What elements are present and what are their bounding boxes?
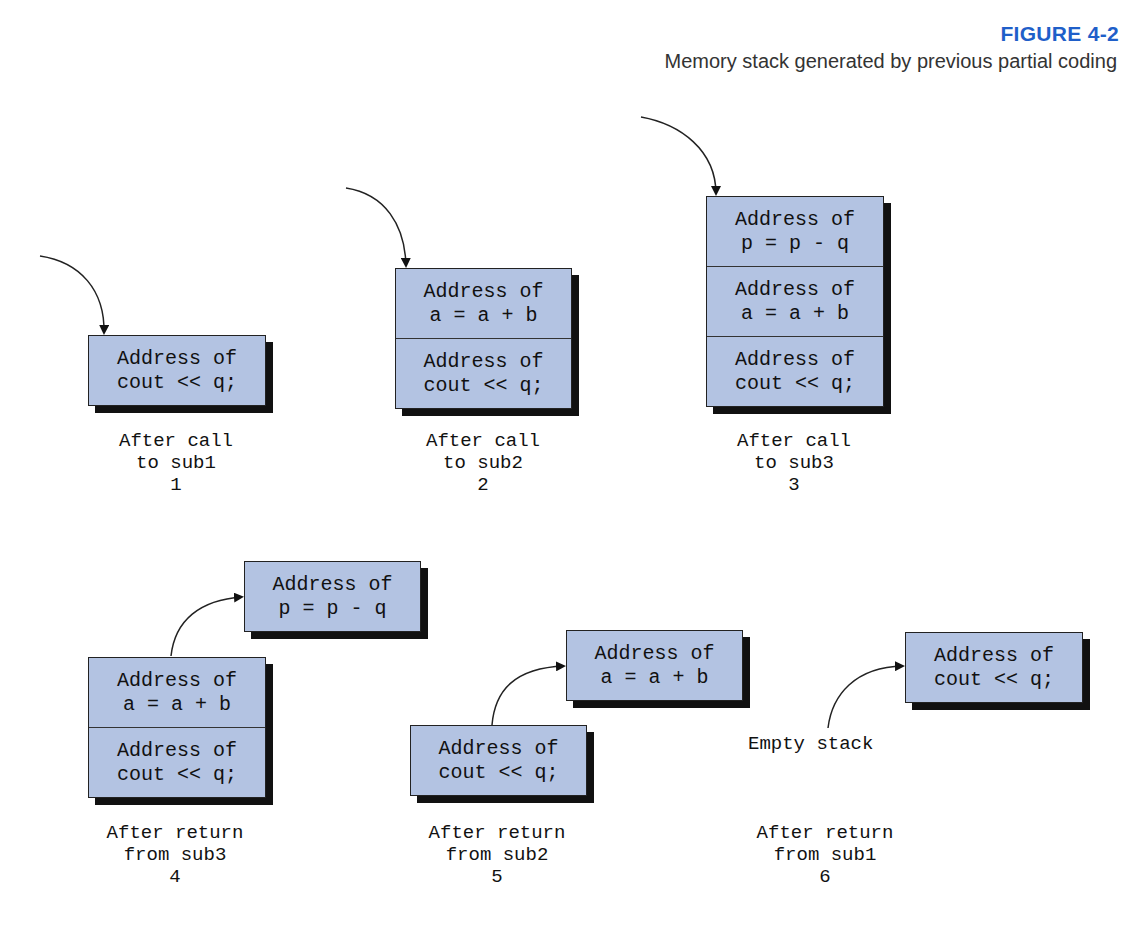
stack-panel-5: Address of cout << q; <box>410 725 587 796</box>
pop-arrow-6 <box>828 666 903 728</box>
popped-frame-cout: Address of cout << q; <box>906 633 1082 702</box>
popped-frame-6: Address of cout << q; <box>905 632 1083 703</box>
pop-arrow-5 <box>492 666 564 725</box>
stack-frame-cout: Address of cout << q; <box>411 726 586 795</box>
stack-frame-sub: Address of p = p - q <box>707 197 883 266</box>
panel-5-label: After return from sub2 5 <box>402 822 592 888</box>
panel-6-label: After return from sub1 6 <box>730 822 920 888</box>
push-arrow-3 <box>641 117 716 194</box>
stack-panel-4: Address of a = a + b Address of cout << … <box>88 657 266 798</box>
popped-frame-sub: Address of p = p - q <box>245 562 420 631</box>
stack-frame-add: Address of a = a + b <box>707 266 883 336</box>
popped-frame-5: Address of a = a + b <box>566 630 743 701</box>
push-arrow-1 <box>40 256 104 333</box>
stack-panel-1: Address of cout << q; <box>88 335 266 406</box>
stack-panel-2: Address of a = a + b Address of cout << … <box>395 268 572 409</box>
pop-arrow-4 <box>171 597 242 656</box>
stack-frame-cout: Address of cout << q; <box>707 336 883 406</box>
panel-2-label: After call to sub2 2 <box>395 430 571 496</box>
panel-3-label: After call to sub3 3 <box>706 430 882 496</box>
stack-frame-add: Address of a = a + b <box>396 269 571 338</box>
panel-4-label: After return from sub3 4 <box>80 822 270 888</box>
stack-panel-3: Address of p = p - q Address of a = a + … <box>706 196 884 407</box>
stack-frame-cout: Address of cout << q; <box>89 336 265 405</box>
empty-stack-label: Empty stack <box>748 733 918 755</box>
stack-frame-cout: Address of cout << q; <box>396 338 571 408</box>
stack-frame-add: Address of a = a + b <box>89 658 265 727</box>
panel-1-label: After call to sub1 1 <box>88 430 264 496</box>
push-arrow-2 <box>346 188 406 266</box>
popped-frame-add: Address of a = a + b <box>567 631 742 700</box>
popped-frame-4: Address of p = p - q <box>244 561 421 632</box>
stack-frame-cout: Address of cout << q; <box>89 727 265 797</box>
